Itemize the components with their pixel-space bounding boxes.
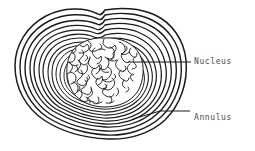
disc-illustration	[0, 0, 255, 151]
disc-diagram-figure: Nucleus Annulus	[0, 0, 255, 151]
nucleus-pulposus	[67, 38, 143, 107]
label-annulus: Annulus	[194, 113, 232, 123]
label-nucleus: Nucleus	[194, 57, 232, 67]
